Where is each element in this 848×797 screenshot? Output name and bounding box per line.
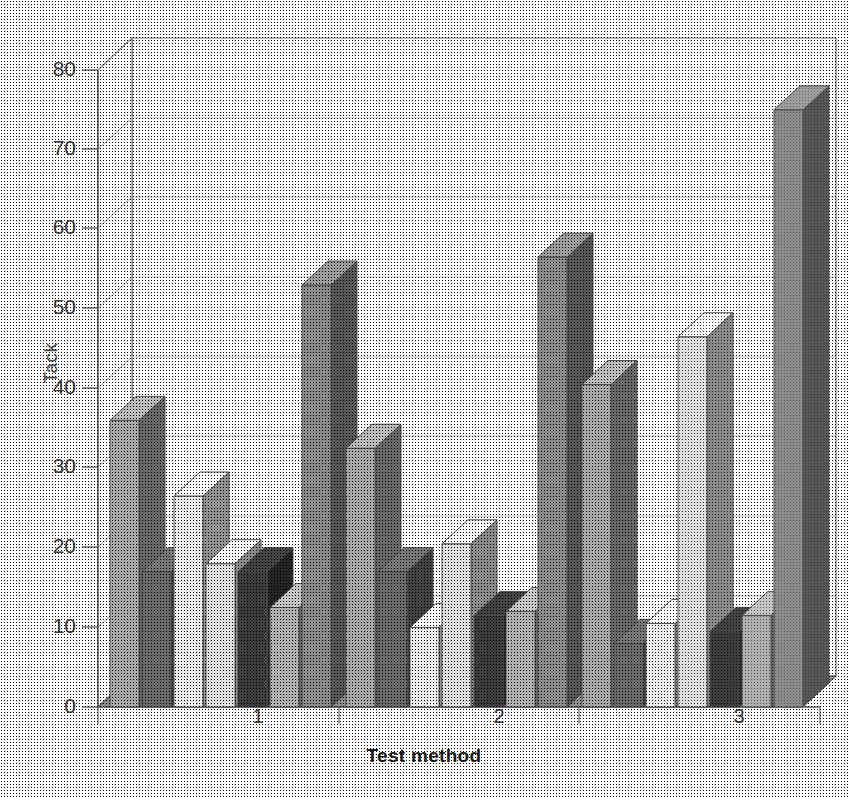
bar-chart-figure: Tack Test method [0, 0, 848, 797]
plot-area: 80 70 60 50 40 30 20 10 0 1 2 3 [0, 0, 848, 797]
bar-group-3-series-7 [0, 0, 848, 797]
